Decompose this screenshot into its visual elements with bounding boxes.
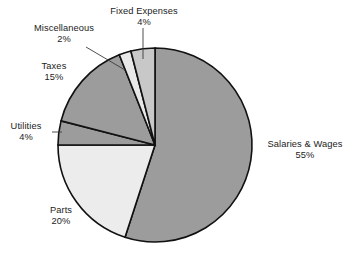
pie-label-salaries-wages-name: Salaries & Wages: [255, 139, 355, 150]
pie-label-utilities: Utilities 4%: [0, 121, 52, 144]
pie-label-salaries-wages: Salaries & Wages 55%: [255, 139, 355, 162]
pie-label-parts-value: 20%: [34, 216, 88, 227]
pie-label-fixed-expenses-value: 4%: [96, 17, 192, 28]
pie-label-miscellaneous-name: Miscellaneous: [18, 23, 110, 34]
pie-label-parts-name: Parts: [34, 205, 88, 216]
pie-label-fixed-expenses: Fixed Expenses 4%: [96, 6, 192, 29]
pie-label-salaries-wages-value: 55%: [255, 150, 355, 161]
pie-label-taxes-name: Taxes: [26, 61, 82, 72]
pie-label-taxes: Taxes 15%: [26, 61, 82, 84]
pie-label-taxes-value: 15%: [26, 72, 82, 83]
pie-label-miscellaneous: Miscellaneous 2%: [18, 23, 110, 46]
pie-chart: Fixed Expenses 4% Miscellaneous 2% Taxes…: [0, 0, 356, 256]
pie-label-fixed-expenses-name: Fixed Expenses: [96, 6, 192, 17]
pie-label-miscellaneous-value: 2%: [18, 34, 110, 45]
pie-label-parts: Parts 20%: [34, 205, 88, 228]
pie-label-utilities-value: 4%: [0, 132, 52, 143]
pie-label-utilities-name: Utilities: [0, 121, 52, 132]
